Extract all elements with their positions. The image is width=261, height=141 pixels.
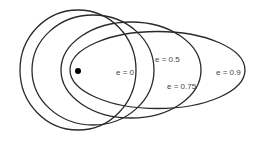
eccentricity-diagram: e = 0 e = 0.5 e = 0.75 e = 0.9 (0, 0, 261, 141)
label-e0: e = 0 (116, 68, 135, 77)
label-e09: e = 0.9 (216, 68, 241, 77)
focus-dot (75, 68, 81, 74)
label-e05: e = 0.5 (155, 55, 180, 64)
label-e075: e = 0.75 (167, 82, 197, 91)
